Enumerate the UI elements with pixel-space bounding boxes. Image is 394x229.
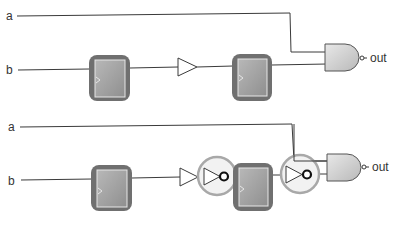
inversion-bubble-icon: [303, 171, 311, 179]
nand-gate: [325, 44, 367, 71]
wire: [272, 64, 327, 65]
nand-gate: [327, 154, 369, 181]
buffer-icon: [180, 168, 198, 186]
buffer-icon: [178, 58, 197, 76]
wire: [197, 66, 233, 67]
input-label-b: b: [8, 174, 15, 188]
input-label-a: a: [8, 120, 15, 134]
wire-a: [20, 124, 327, 161]
circuit-original: a b out: [6, 9, 387, 101]
wire-a: [17, 13, 327, 52]
wire-b: [21, 179, 92, 180]
highlighted-inverter: [198, 157, 236, 195]
highlighted-inverter: [281, 124, 327, 193]
flip-flop: [91, 165, 132, 211]
flip-flop: [232, 54, 272, 101]
flip-flop: [89, 55, 130, 101]
output-label-out: out: [370, 51, 387, 65]
circuit-retimed: a b: [8, 120, 389, 211]
wire: [130, 67, 178, 68]
output-label-out: out: [372, 160, 389, 174]
inversion-bubble-icon: [220, 173, 228, 181]
input-label-a: a: [6, 9, 13, 23]
circuit-diagram: a b out a b: [0, 0, 394, 229]
input-label-b: b: [6, 63, 13, 77]
inversion-bubble-icon: [360, 56, 364, 60]
flip-flop: [233, 163, 273, 211]
inversion-bubble-icon: [362, 165, 366, 169]
wire-b: [18, 69, 89, 70]
wire: [132, 177, 180, 178]
